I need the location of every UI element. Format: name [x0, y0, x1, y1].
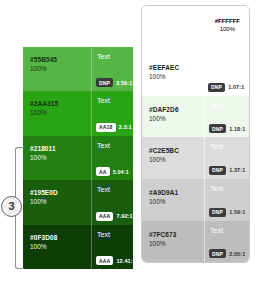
contrast-ratio-value: 5.04:1 — [113, 169, 129, 175]
swatch-info: #55B545100% — [23, 47, 91, 91]
white-swatch-label: #FFFFFF 100% — [215, 17, 240, 33]
sample-text: Text — [97, 231, 110, 239]
swatch-opacity-label: 100% — [30, 108, 91, 117]
wcag-level-badge: DNP — [208, 83, 225, 92]
annotation-marker-3[interactable]: 3 — [1, 196, 22, 217]
swatch-info: #2AA315100% — [23, 91, 91, 135]
swatch-hex-label: #218011 — [30, 145, 91, 153]
swatch-hex-label: #0F3D08 — [30, 234, 91, 242]
contrast-ratio-value: 1.37:1 — [229, 167, 245, 173]
swatch-opacity-label: 100% — [30, 153, 91, 162]
wcag-level-badge: AAA — [96, 256, 113, 265]
contrast-ratio-value: 1.59:1 — [229, 209, 245, 215]
swatch-info: #0F3D08100% — [23, 225, 91, 269]
swatch-row[interactable]: #C2E5BC100%TextDNP1.37:1 — [142, 137, 249, 179]
swatch-opacity-label: 100% — [30, 242, 91, 251]
contrast-result: DNP1.59:1 — [209, 208, 245, 217]
swatch-row[interactable]: #55B545100%TextDNP2.59:1 — [23, 47, 133, 91]
sample-text: Text — [97, 97, 110, 105]
swatch-hex-label: #195E0D — [30, 189, 91, 197]
sample-text: Text — [210, 185, 223, 193]
contrast-ratio-value: 2.05:1 — [229, 251, 245, 257]
contrast-ratio-value: 12.41:1 — [116, 258, 135, 264]
swatch-info: #C2E5BC100% — [142, 137, 204, 179]
contrast-result: AAA7.92:1 — [96, 212, 133, 221]
annotation-marker-label: 3 — [8, 201, 14, 212]
swatch-row[interactable]: #DAF2D6100%TextDNP1.18:1 — [142, 96, 249, 138]
swatch-contrast-preview: TextAAA7.92:1 — [91, 180, 133, 224]
sample-text: Text — [210, 227, 223, 235]
contrast-ratio-value: 1.07:1 — [228, 84, 244, 90]
contrast-ratio-value: 1.18:1 — [229, 126, 245, 132]
wcag-level-badge: AA18 — [96, 123, 116, 132]
swatch-info: #EEFAEC100% — [142, 6, 204, 96]
sample-text: Text — [97, 53, 110, 61]
wcag-level-badge: DNP — [209, 249, 226, 258]
wcag-level-badge: DNP — [209, 124, 226, 133]
wcag-level-badge: DNP — [209, 166, 226, 175]
contrast-result: AAA12.41:1 — [96, 256, 136, 265]
swatch-row[interactable]: #A9D9A1100%TextDNP1.59:1 — [142, 179, 249, 221]
swatch-hex-label: #A9D9A1 — [149, 189, 204, 197]
wcag-level-badge: DNP — [96, 78, 113, 87]
swatch-contrast-preview: TextDNP2.59:1 — [91, 47, 133, 91]
swatch-row[interactable]: #2AA315100%TextAA183.3:1 — [23, 91, 133, 135]
sample-text: Text — [210, 102, 223, 110]
contrast-result: DNP2.59:1 — [96, 78, 132, 87]
sample-text: Text — [97, 142, 110, 150]
swatch-contrast-preview: TextDNP2.05:1 — [204, 221, 249, 263]
swatch-hex-label: #EEFAEC — [149, 64, 204, 72]
wcag-level-badge: AA — [96, 167, 110, 176]
swatch-info: #DAF2D6100% — [142, 96, 204, 138]
contrast-result: DNP2.05:1 — [209, 249, 245, 258]
contrast-ratio-value: 3.3:1 — [119, 124, 132, 130]
swatch-hex-label: #2AA315 — [30, 100, 91, 108]
light-green-scale-panel: #FFFFFF 100% #EEFAEC100%DNP1.07:1#DAF2D6… — [141, 5, 250, 263]
swatch-contrast-preview: TextAA5.04:1 — [91, 136, 133, 180]
swatch-opacity-label: 100% — [149, 239, 204, 248]
contrast-ratio-value: 7.92:1 — [116, 213, 132, 219]
wcag-level-badge: DNP — [209, 208, 226, 217]
swatch-opacity-label: 100% — [149, 72, 204, 81]
swatch-hex-label: #55B545 — [30, 56, 91, 64]
contrast-result: DNP1.37:1 — [209, 166, 245, 175]
swatch-opacity-label: 100% — [149, 155, 204, 164]
dark-green-scale-panel: #55B545100%TextDNP2.59:1#2AA315100%TextA… — [23, 47, 133, 269]
wcag-level-badge: AAA — [96, 212, 113, 221]
swatch-info: #7FC673100% — [142, 221, 204, 263]
swatch-hex-label: #DAF2D6 — [149, 106, 204, 114]
swatch-opacity-label: 100% — [30, 197, 91, 206]
swatch-row[interactable]: #195E0D100%TextAAA7.92:1 — [23, 180, 133, 224]
contrast-ratio-value: 2.59:1 — [116, 80, 132, 86]
contrast-result: AA183.3:1 — [96, 123, 132, 132]
swatch-row[interactable]: #7FC673100%TextDNP2.05:1 — [142, 221, 249, 263]
swatch-row[interactable]: #0F3D08100%TextAAA12.41:1 — [23, 225, 133, 269]
white-swatch-hex: #FFFFFF — [215, 17, 240, 25]
swatch-info: #195E0D100% — [23, 180, 91, 224]
white-swatch-opacity: 100% — [215, 25, 240, 33]
contrast-result: DNP1.07:1 — [208, 83, 244, 92]
swatch-info: #218011100% — [23, 136, 91, 180]
sample-text: Text — [97, 186, 110, 194]
swatch-info: #A9D9A1100% — [142, 179, 204, 221]
swatch-opacity-label: 100% — [149, 197, 204, 206]
swatch-contrast-preview: TextDNP1.18:1 — [204, 96, 249, 138]
contrast-result: AA5.04:1 — [96, 167, 129, 176]
swatch-contrast-preview: TextAAA12.41:1 — [91, 225, 133, 269]
swatch-opacity-label: 100% — [149, 114, 204, 123]
swatch-contrast-preview: TextDNP1.37:1 — [204, 137, 249, 179]
swatch-row[interactable]: #218011100%TextAA5.04:1 — [23, 136, 133, 180]
swatch-opacity-label: 100% — [30, 64, 91, 73]
swatch-hex-label: #7FC673 — [149, 231, 204, 239]
swatch-hex-label: #C2E5BC — [149, 147, 204, 155]
swatch-contrast-preview: TextAA183.3:1 — [91, 91, 133, 135]
contrast-result: DNP1.18:1 — [209, 124, 245, 133]
sample-text: Text — [210, 143, 223, 151]
swatch-contrast-preview: TextDNP1.59:1 — [204, 179, 249, 221]
